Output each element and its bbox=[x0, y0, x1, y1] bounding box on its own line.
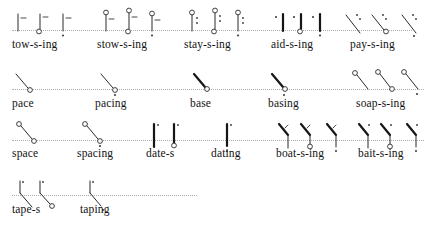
outline-group-label: date-s bbox=[146, 147, 174, 159]
outline-group-label: soap-s-ing bbox=[356, 97, 405, 109]
outline-base bbox=[194, 74, 209, 91]
outline-tow bbox=[18, 14, 26, 31]
outline-group-label: stow-s-ing bbox=[97, 38, 147, 50]
exercise-row: space spacing bbox=[0, 118, 430, 173]
outline-group-label: boat-s-ing bbox=[276, 147, 324, 159]
outline-aid bbox=[275, 14, 283, 31]
outline-tape-s bbox=[40, 181, 54, 208]
outline-boat-ing bbox=[327, 124, 337, 152]
outline-basing bbox=[272, 74, 287, 96]
exercise-row: pace pacing bbox=[0, 60, 430, 115]
outline-stow-s bbox=[126, 8, 137, 34]
outline-pay-s bbox=[372, 14, 388, 34]
outline-spacing bbox=[83, 122, 103, 147]
outline-group-label: space bbox=[12, 147, 38, 159]
outline-bait-s bbox=[381, 124, 392, 149]
outline-group-label: tow-s-ing bbox=[12, 38, 57, 50]
exercise-row: tape-s taping bbox=[0, 175, 430, 235]
outline-tow-ing bbox=[62, 14, 71, 37]
outline-stow bbox=[104, 10, 114, 31]
outline-boat bbox=[279, 124, 288, 148]
shorthand-exercise-sheet: tow-s-ing bbox=[0, 0, 430, 241]
outline-bait bbox=[359, 124, 370, 148]
outline-date bbox=[154, 124, 159, 147]
outline-group-label: dating bbox=[211, 147, 241, 159]
outline-aid-s bbox=[293, 14, 302, 34]
outline-group-label: pace bbox=[12, 97, 34, 109]
outline-pay-ing bbox=[402, 14, 417, 37]
outline-date-s bbox=[172, 124, 179, 148]
outline-soap-ing bbox=[402, 70, 418, 95]
outline-stay bbox=[190, 10, 198, 31]
outline-space bbox=[17, 122, 37, 144]
outline-stow-ing bbox=[150, 11, 160, 36]
outline-soap bbox=[353, 71, 368, 89]
outline-pace bbox=[16, 74, 32, 92]
outline-tow-s bbox=[37, 14, 48, 34]
outline-pacing bbox=[101, 74, 117, 96]
outline-group-label: spacing bbox=[77, 147, 113, 159]
outline-group-label: aid-s-ing bbox=[271, 38, 313, 50]
outline-group-label: pay-s-ing bbox=[350, 38, 395, 50]
outline-group-label: basing bbox=[268, 97, 299, 109]
outline-group-label: base bbox=[190, 97, 211, 109]
outline-stay-s bbox=[212, 8, 221, 34]
outline-group-label: tape-s bbox=[12, 203, 40, 215]
outline-group-label: taping bbox=[80, 203, 110, 215]
exercise-row: tow-s-ing bbox=[0, 0, 430, 58]
outline-aid-ing bbox=[312, 14, 321, 37]
outline-boat-s bbox=[301, 124, 312, 149]
outline-group-label: stay-s-ing bbox=[184, 38, 231, 50]
outline-bait-ing bbox=[407, 124, 418, 152]
outline-pay bbox=[346, 14, 361, 33]
outline-group-label: bait-s-ing bbox=[358, 147, 404, 159]
outline-stay-ing bbox=[236, 10, 244, 36]
outline-soap-s bbox=[376, 70, 395, 92]
outline-group-label: pacing bbox=[95, 97, 127, 109]
